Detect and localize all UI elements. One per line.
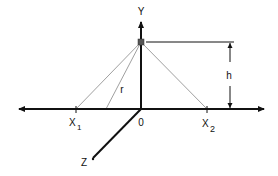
z-axis — [93, 109, 141, 158]
radius-label: r — [120, 84, 124, 95]
x2-subscript: 2 — [210, 124, 215, 134]
z-axis-label: Z — [81, 157, 87, 168]
z-axis-tip — [92, 158, 94, 160]
x2-label: X — [202, 118, 209, 129]
ray-to-x1 — [76, 42, 141, 109]
y-axis-label: Y — [138, 6, 145, 17]
height-label: h — [226, 70, 232, 81]
origin-label: 0 — [138, 117, 144, 128]
x1-subscript: 1 — [77, 123, 82, 132]
ray-to-x2 — [141, 42, 207, 109]
diagram-canvas: Y h r 0 X 1 X 2 Z — [0, 0, 278, 176]
source-point — [138, 39, 144, 45]
coordinate-diagram: Y h r 0 X 1 X 2 Z — [0, 0, 278, 176]
x1-label: X — [69, 117, 76, 128]
ray-r — [106, 42, 141, 109]
